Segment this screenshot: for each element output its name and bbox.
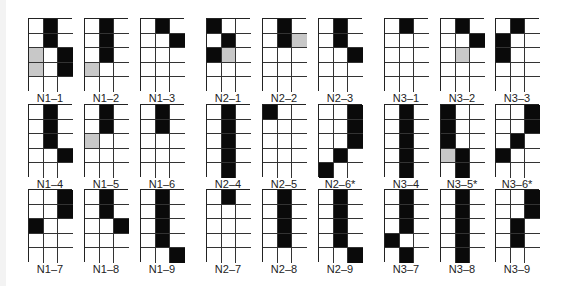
grid-cell-empty xyxy=(496,163,511,178)
grid-cell-empty xyxy=(511,149,526,164)
grid-cell-empty xyxy=(263,19,278,34)
grid-cell-filled xyxy=(222,105,237,120)
grid-cell-empty xyxy=(525,134,540,149)
grid-cell-empty xyxy=(414,219,429,234)
grid-cell-empty xyxy=(278,149,293,164)
grid-cell-empty xyxy=(29,163,44,178)
grid-cell-empty xyxy=(207,34,222,49)
grid-cell-empty xyxy=(334,120,349,135)
grid-cell-empty xyxy=(141,63,156,78)
grid-cell-empty xyxy=(456,134,471,149)
grid-cell-empty xyxy=(85,19,100,34)
pattern-grid xyxy=(140,18,184,91)
grid-cell-empty xyxy=(470,219,485,234)
grid-cell-empty xyxy=(263,48,278,63)
grid-cell-empty xyxy=(470,105,485,120)
grid-cell-empty xyxy=(292,149,307,164)
pattern-grid xyxy=(262,189,306,262)
pattern-panel: N2–3 xyxy=(318,18,364,104)
grid-cell-empty xyxy=(141,77,156,92)
grid-cell-gray xyxy=(456,48,471,63)
grid-cell-empty xyxy=(319,190,334,205)
pattern-grid xyxy=(318,189,362,262)
grid-cell-empty xyxy=(496,134,511,149)
grid-cell-filled xyxy=(170,248,185,263)
grid-cell-empty xyxy=(334,63,349,78)
grid-cell-filled xyxy=(348,48,363,63)
panel-label: N2–2 xyxy=(262,92,306,104)
grid-cell-empty xyxy=(236,149,251,164)
grid-cell-empty xyxy=(348,149,363,164)
grid-cell-empty xyxy=(141,149,156,164)
grid-cell-empty xyxy=(85,77,100,92)
grid-cell-empty xyxy=(58,120,73,135)
grid-cell-empty xyxy=(100,163,115,178)
pattern-panel: N1–3 xyxy=(140,18,186,104)
pattern-panel: N2–7 xyxy=(206,189,252,275)
grid-cell-empty xyxy=(348,77,363,92)
grid-cell-filled xyxy=(348,120,363,135)
grid-cell-empty xyxy=(496,63,511,78)
grid-cell-filled xyxy=(456,190,471,205)
grid-cell-empty xyxy=(29,205,44,220)
grid-cell-empty xyxy=(414,48,429,63)
panel-label: N1–2 xyxy=(84,92,128,104)
pattern-grid xyxy=(140,104,184,177)
grid-cell-empty xyxy=(58,105,73,120)
grid-cell-empty xyxy=(170,48,185,63)
pattern-panel: N3–8 xyxy=(440,189,486,275)
grid-cell-filled xyxy=(334,205,349,220)
grid-cell-empty xyxy=(114,163,129,178)
pattern-grid xyxy=(206,104,250,177)
grid-cell-filled xyxy=(278,19,293,34)
grid-cell-empty xyxy=(525,234,540,249)
grid-cell-empty xyxy=(441,205,456,220)
grid-cell-empty xyxy=(207,120,222,135)
grid-cell-empty xyxy=(236,48,251,63)
grid-cell-empty xyxy=(334,248,349,263)
grid-cell-empty xyxy=(319,205,334,220)
grid-cell-empty xyxy=(263,149,278,164)
panel-label: N3–1 xyxy=(384,92,428,104)
grid-cell-empty xyxy=(414,234,429,249)
grid-cell-filled xyxy=(400,219,415,234)
pattern-grid xyxy=(206,18,250,91)
grid-cell-empty xyxy=(348,34,363,49)
grid-cell-empty xyxy=(236,205,251,220)
grid-cell-empty xyxy=(292,63,307,78)
pattern-panel: N3–3 xyxy=(495,18,541,104)
pattern-grid xyxy=(495,104,539,177)
grid-cell-empty xyxy=(385,190,400,205)
grid-cell-empty xyxy=(141,19,156,34)
grid-cell-empty xyxy=(263,190,278,205)
grid-cell-empty xyxy=(114,120,129,135)
grid-cell-empty xyxy=(236,219,251,234)
grid-cell-empty xyxy=(511,205,526,220)
grid-cell-empty xyxy=(470,234,485,249)
pattern-panel: N3–2 xyxy=(440,18,486,104)
grid-cell-empty xyxy=(156,77,171,92)
pattern-grid xyxy=(440,18,484,91)
grid-cell-filled xyxy=(114,219,129,234)
grid-cell-empty xyxy=(170,77,185,92)
pattern-grid xyxy=(318,104,362,177)
grid-cell-filled xyxy=(278,34,293,49)
grid-cell-filled xyxy=(456,248,471,263)
grid-cell-empty xyxy=(44,205,59,220)
pattern-panel: N1–1 xyxy=(28,18,74,104)
grid-cell-filled xyxy=(278,205,293,220)
pattern-panel: N3–6* xyxy=(495,104,541,190)
grid-cell-empty xyxy=(278,48,293,63)
grid-cell-empty xyxy=(141,248,156,263)
pattern-panel: N1–7 xyxy=(28,189,74,275)
grid-cell-empty xyxy=(114,77,129,92)
pattern-grid xyxy=(84,104,128,177)
grid-cell-empty xyxy=(141,120,156,135)
grid-cell-empty xyxy=(263,234,278,249)
grid-cell-empty xyxy=(207,134,222,149)
grid-cell-empty xyxy=(114,19,129,34)
pattern-panel: N3–9 xyxy=(495,189,541,275)
panel-label: N3–9 xyxy=(495,263,539,275)
panel-label: N2–7 xyxy=(206,263,250,275)
grid-cell-empty xyxy=(470,77,485,92)
